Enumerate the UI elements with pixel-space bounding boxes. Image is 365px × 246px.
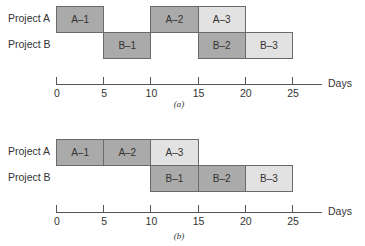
x-axis-tick-label: 10 (146, 215, 158, 227)
x-axis-title: Days (328, 205, 352, 217)
task-bar: B–3 (245, 32, 293, 59)
task-bar: A–1 (56, 139, 104, 166)
task-bar: A–2 (103, 139, 151, 166)
x-axis-tick (103, 205, 104, 213)
task-bar: B–1 (103, 32, 151, 59)
task-bar: B–3 (245, 165, 293, 192)
task-bar: A–3 (150, 139, 198, 166)
x-axis-tick (103, 77, 104, 85)
x-axis-tick-label: 25 (287, 87, 299, 99)
row-label-project-a: Project A (8, 12, 50, 24)
x-axis-tick (150, 205, 151, 213)
row-label-project-b: Project B (8, 38, 51, 50)
x-axis-tick (150, 77, 151, 85)
x-axis-tick-label: 5 (101, 87, 107, 99)
figure-caption: (b) (174, 231, 185, 241)
x-axis-tick (56, 205, 57, 213)
x-axis-line (56, 84, 322, 85)
task-bar: B–2 (198, 165, 246, 192)
x-axis-tick (56, 77, 57, 85)
x-axis-tick-label: 0 (54, 87, 60, 99)
x-axis-line (56, 212, 322, 213)
task-bar: A–1 (56, 6, 104, 33)
row-label-project-a: Project A (8, 145, 50, 157)
x-axis-tick (245, 77, 246, 85)
x-axis-tick-label: 20 (240, 87, 252, 99)
x-axis-tick-label: 20 (240, 215, 252, 227)
x-axis-tick-label: 25 (287, 215, 299, 227)
x-axis-tick-label: 0 (54, 215, 60, 227)
task-bar: A–2 (150, 6, 198, 33)
task-bar: B–1 (150, 165, 198, 192)
task-bar: A–3 (198, 6, 246, 33)
x-axis-tick (198, 77, 199, 85)
x-axis-tick (198, 205, 199, 213)
row-label-project-b: Project B (8, 171, 51, 183)
figure-caption: (a) (174, 99, 185, 109)
x-axis-tick-label: 15 (193, 215, 205, 227)
x-axis-tick-label: 10 (146, 87, 158, 99)
task-bar: B–2 (198, 32, 246, 59)
x-axis-title: Days (328, 77, 352, 89)
x-axis-tick (245, 205, 246, 213)
x-axis-tick-label: 15 (193, 87, 205, 99)
x-axis-tick (292, 77, 293, 85)
x-axis-tick-label: 5 (101, 215, 107, 227)
x-axis-tick (292, 205, 293, 213)
